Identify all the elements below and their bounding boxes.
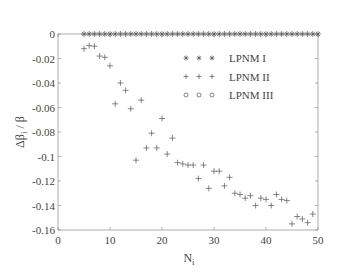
asterisk-marker	[112, 31, 118, 37]
plus-marker	[263, 196, 269, 202]
plus-marker	[184, 74, 189, 79]
data-points	[81, 31, 321, 227]
asterisk-marker	[175, 31, 181, 37]
plus-marker	[289, 221, 295, 227]
circle-marker	[210, 93, 214, 97]
legend-label: LPNM III	[229, 89, 274, 101]
plus-marker	[310, 211, 316, 217]
asterisk-marker	[310, 31, 316, 37]
y-tick-label: 0	[50, 28, 56, 40]
plus-marker	[149, 130, 155, 136]
plus-marker	[164, 151, 170, 157]
x-tick-label: 40	[261, 234, 273, 246]
plus-marker	[206, 185, 212, 191]
asterisk-marker	[294, 31, 300, 37]
plus-marker	[190, 162, 196, 168]
series-lpnm-ii	[81, 43, 316, 227]
asterisk-marker	[279, 31, 285, 37]
asterisk-marker	[184, 56, 189, 61]
plus-marker	[247, 193, 253, 199]
axes	[58, 34, 318, 230]
plus-marker	[305, 220, 311, 226]
y-axis-title: Δβi / β	[13, 116, 29, 148]
asterisk-marker	[86, 31, 92, 37]
plus-marker	[195, 176, 201, 182]
asterisk-marker	[138, 31, 144, 37]
legend-item: LPNM I	[184, 52, 267, 64]
plus-marker	[201, 162, 207, 168]
plus-marker	[197, 74, 202, 79]
asterisk-marker	[123, 31, 129, 37]
asterisk-marker	[143, 31, 149, 37]
plus-marker	[268, 203, 274, 209]
y-tick-label: -0.14	[32, 200, 55, 212]
plus-marker	[232, 190, 238, 196]
circle-marker	[197, 93, 201, 97]
x-axis-title: Ni	[183, 251, 195, 267]
asterisk-marker	[242, 31, 248, 37]
plus-marker	[117, 80, 123, 86]
plus-marker	[299, 216, 305, 222]
y-tick-label: -0.02	[32, 53, 55, 65]
plus-marker	[211, 168, 217, 174]
plus-marker	[91, 43, 97, 49]
asterisk-marker	[201, 31, 207, 37]
asterisk-marker	[232, 31, 238, 37]
asterisk-marker	[221, 31, 227, 37]
legend-item: LPNM II	[184, 71, 270, 83]
plus-marker	[284, 198, 290, 204]
plus-marker	[221, 183, 227, 189]
plus-marker	[216, 168, 222, 174]
legend-label: LPNM II	[229, 71, 270, 83]
asterisk-marker	[227, 31, 233, 37]
plus-marker	[253, 203, 259, 209]
asterisk-marker	[216, 31, 222, 37]
legend-label: LPNM I	[229, 52, 266, 64]
plot-frame	[58, 34, 318, 230]
asterisk-marker	[102, 31, 108, 37]
y-tick-label: -0.1	[38, 151, 55, 163]
asterisk-marker	[91, 31, 97, 37]
asterisk-marker	[117, 31, 123, 37]
asterisk-marker	[197, 56, 202, 61]
x-tick-label: 50	[313, 234, 325, 246]
plus-marker	[97, 53, 103, 59]
asterisk-marker	[107, 31, 113, 37]
legend-item: LPNM III	[184, 89, 274, 101]
y-tick-label: -0.08	[32, 126, 55, 138]
asterisk-marker	[154, 31, 160, 37]
plus-marker	[133, 157, 139, 163]
plus-marker	[175, 160, 181, 166]
circle-marker	[184, 93, 188, 97]
asterisk-marker	[210, 56, 215, 61]
asterisk-marker	[315, 31, 321, 37]
plus-marker	[138, 97, 144, 103]
plus-marker	[169, 135, 175, 141]
asterisk-marker	[190, 31, 196, 37]
asterisk-marker	[149, 31, 155, 37]
plus-marker	[81, 46, 87, 52]
plus-marker	[210, 74, 215, 79]
plus-marker	[185, 162, 191, 168]
asterisk-marker	[237, 31, 243, 37]
asterisk-marker	[263, 31, 269, 37]
asterisk-marker	[273, 31, 279, 37]
plus-marker	[128, 106, 134, 112]
plus-marker	[86, 43, 92, 49]
x-tick-label: 10	[105, 234, 117, 246]
asterisk-marker	[247, 31, 253, 37]
x-tick-label: 0	[55, 234, 61, 246]
scatter-chart: 010203040500-0.02-0.04-0.06-0.08-0.1-0.1…	[0, 0, 341, 272]
asterisk-marker	[180, 31, 186, 37]
asterisk-marker	[289, 31, 295, 37]
plus-marker	[159, 116, 165, 122]
asterisk-marker	[195, 31, 201, 37]
plus-marker	[279, 196, 285, 202]
y-tick-label: -0.06	[32, 102, 55, 114]
asterisk-marker	[206, 31, 212, 37]
y-tick-label: -0.16	[32, 224, 55, 236]
series-lpnm-i	[81, 31, 321, 37]
x-tick-label: 20	[157, 234, 169, 246]
plus-marker	[237, 191, 243, 197]
plus-marker	[258, 195, 264, 201]
